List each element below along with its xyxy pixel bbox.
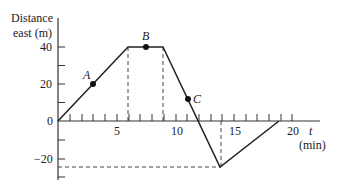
point-a-label: A xyxy=(83,69,90,82)
y-tick-0: 0 xyxy=(47,115,53,128)
x-tick-5: 5 xyxy=(114,125,120,138)
point-c-label: C xyxy=(193,93,201,106)
x-axis-unit: (min) xyxy=(299,139,326,152)
x-ticks xyxy=(70,114,292,121)
y-axis-label-2: east (m) xyxy=(13,27,52,40)
point-b xyxy=(143,44,149,50)
y-axis-label-1: Distance xyxy=(11,12,53,25)
x-tick-10: 10 xyxy=(171,125,183,138)
x-axis-variable: t xyxy=(309,125,312,138)
x-tick-20: 20 xyxy=(287,125,299,138)
point-c xyxy=(185,96,191,102)
guide-lines xyxy=(58,47,221,167)
y-tick-20: 20 xyxy=(40,78,52,91)
position-line xyxy=(58,47,279,167)
y-ticks xyxy=(58,47,65,177)
point-b-label: B xyxy=(142,30,149,43)
point-a xyxy=(90,81,96,87)
x-tick-15: 15 xyxy=(229,125,241,138)
y-tick-40: 40 xyxy=(40,41,52,54)
y-tick-neg20: −20 xyxy=(34,153,53,166)
